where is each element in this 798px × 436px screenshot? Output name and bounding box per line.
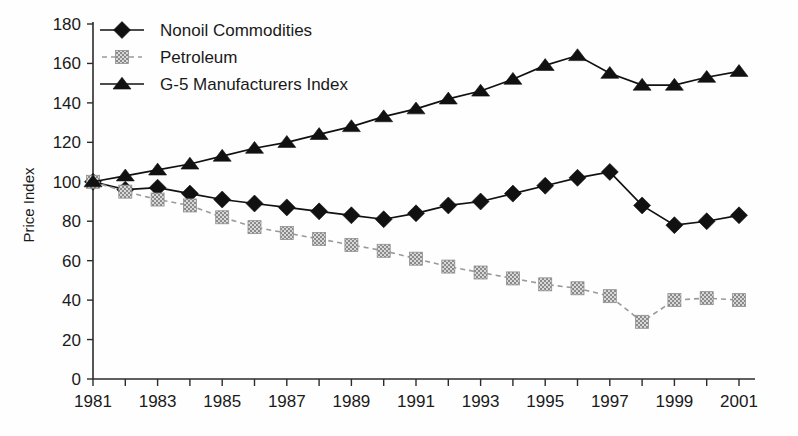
data-point-marker (539, 278, 552, 291)
data-point-marker (504, 72, 522, 84)
legend-label: Petroleum (160, 48, 237, 67)
data-point-marker (377, 244, 390, 257)
data-point-marker (440, 197, 457, 214)
y-tick-label: 120 (53, 133, 81, 152)
y-axis-title: Price Index (20, 167, 37, 243)
data-point-marker (278, 199, 295, 216)
data-point-marker (474, 266, 487, 279)
y-tick-label: 40 (62, 291, 81, 310)
data-point-marker (733, 294, 746, 307)
series-1 (85, 163, 748, 233)
data-point-marker (246, 195, 263, 212)
data-point-marker (571, 282, 584, 295)
x-tick-label: 1985 (203, 392, 241, 411)
data-point-marker (116, 51, 129, 64)
data-point-marker (569, 49, 587, 61)
data-point-marker (536, 59, 554, 71)
y-axis: 020406080100120140160180 (53, 15, 93, 389)
series-2 (87, 175, 746, 328)
y-tick-label: 100 (53, 173, 81, 192)
x-axis: 1981198319851987198919911993199519971999… (74, 379, 758, 411)
data-point-marker (151, 193, 164, 206)
data-point-marker (345, 238, 358, 251)
x-tick-label: 1999 (655, 392, 693, 411)
data-point-marker (342, 120, 360, 132)
data-point-marker (601, 66, 619, 78)
data-point-marker (280, 227, 293, 240)
x-tick-label: 1991 (397, 392, 435, 411)
x-tick-label: 1989 (332, 392, 370, 411)
data-point-marker (248, 221, 261, 234)
data-point-marker (311, 203, 328, 220)
data-point-marker (700, 292, 713, 305)
data-point-marker (603, 290, 616, 303)
legend-item-2: Petroleum (102, 48, 237, 67)
chart-container: 020406080100120140160180 198119831985198… (0, 0, 798, 436)
x-tick-label: 1981 (74, 392, 112, 411)
data-point-marker (668, 294, 681, 307)
y-tick-label: 20 (62, 331, 81, 350)
data-point-marker (569, 169, 586, 186)
y-tick-label: 60 (62, 252, 81, 271)
data-point-marker (537, 177, 554, 194)
data-point-marker (113, 77, 131, 89)
legend-label: Nonoil Commodities (160, 21, 312, 40)
chart-svg: 020406080100120140160180 198119831985198… (0, 0, 798, 436)
x-tick-label: 2001 (720, 392, 758, 411)
legend-item-3: G-5 Manufacturers Index (100, 75, 349, 94)
y-tick-label: 140 (53, 94, 81, 113)
chart-legend: Nonoil CommoditiesPetroleumG-5 Manufactu… (100, 21, 349, 94)
data-point-marker (313, 232, 326, 245)
legend-item-1: Nonoil Commodities (100, 21, 312, 40)
legend-label: G-5 Manufacturers Index (160, 75, 349, 94)
data-point-marker (442, 260, 455, 273)
x-tick-label: 1993 (462, 392, 500, 411)
data-point-marker (183, 199, 196, 212)
data-point-marker (472, 193, 489, 210)
data-point-marker (633, 78, 651, 90)
y-tick-label: 80 (62, 212, 81, 231)
data-point-marker (730, 65, 748, 77)
y-tick-label: 160 (53, 54, 81, 73)
data-point-marker (407, 102, 425, 114)
data-point-marker (504, 185, 521, 202)
x-tick-label: 1997 (591, 392, 629, 411)
x-tick-label: 1995 (526, 392, 564, 411)
data-point-marker (698, 213, 715, 230)
x-tick-label: 1987 (268, 392, 306, 411)
series-3 (84, 49, 748, 187)
data-point-marker (343, 207, 360, 224)
x-tick-label: 1983 (139, 392, 177, 411)
data-point-marker (216, 211, 229, 224)
data-point-marker (636, 315, 649, 328)
data-point-marker (119, 185, 132, 198)
data-point-marker (408, 205, 425, 222)
data-point-marker (375, 211, 392, 228)
y-tick-label: 0 (72, 370, 81, 389)
data-point-marker (731, 207, 748, 224)
y-tick-label: 180 (53, 15, 81, 34)
data-point-marker (410, 252, 423, 265)
data-point-marker (506, 272, 519, 285)
data-point-marker (114, 22, 131, 39)
data-point-marker (472, 84, 490, 96)
data-point-marker (666, 217, 683, 234)
data-point-marker (214, 191, 231, 208)
